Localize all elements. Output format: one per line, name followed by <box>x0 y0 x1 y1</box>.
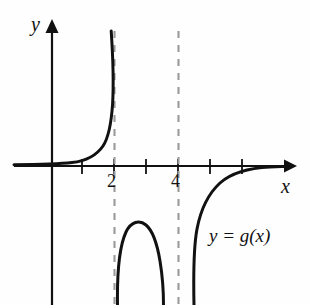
curve-equation-label: y = g(x) <box>209 226 270 245</box>
x-axis-label: x <box>281 176 290 196</box>
x-axis-arrowhead <box>284 160 297 173</box>
graph-canvas <box>0 0 310 305</box>
y-axis-arrowhead <box>46 19 59 33</box>
function-graph-figure: y x 2 4 y = g(x) <box>0 0 310 305</box>
x-tick-label-2: 2 <box>107 172 116 190</box>
curve-branch-middle <box>117 222 163 305</box>
x-tick-label-4: 4 <box>171 172 180 190</box>
y-axis-label: y <box>31 14 40 34</box>
curve-branch-left <box>14 31 113 165</box>
